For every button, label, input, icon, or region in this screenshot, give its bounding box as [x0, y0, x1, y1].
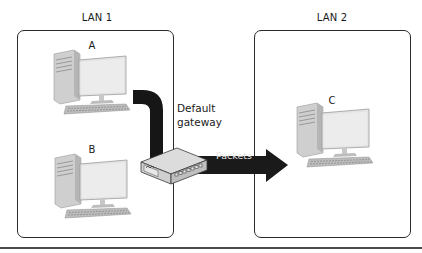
- desktop-computer-icon: [51, 154, 136, 220]
- gateway-label-line2: gateway: [177, 115, 222, 129]
- desktop-computer-icon: [293, 103, 378, 169]
- bottom-divider: [0, 247, 422, 249]
- packets-label: Packets: [216, 150, 252, 161]
- gateway-label: Default gateway: [177, 101, 222, 129]
- network-switch-icon: [139, 144, 209, 186]
- lan2-label: LAN 2: [302, 12, 362, 23]
- gateway-label-line1: Default: [177, 101, 222, 115]
- lan1-label: LAN 1: [67, 12, 127, 23]
- desktop-computer-icon: [50, 50, 135, 116]
